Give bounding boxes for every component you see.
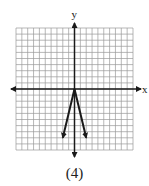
y-axis-label: y — [72, 8, 78, 20]
coordinate-plane: x y — [0, 0, 149, 186]
x-axis-label: x — [142, 83, 148, 95]
figure-caption: (4) — [0, 165, 149, 182]
